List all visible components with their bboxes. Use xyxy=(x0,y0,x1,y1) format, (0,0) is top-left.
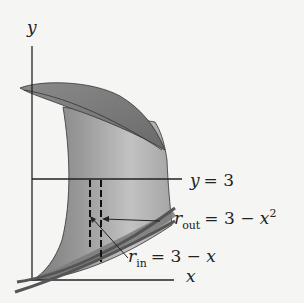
r-in-label: rin= 3 − x xyxy=(128,246,216,270)
line-label: y= 3 xyxy=(189,170,234,190)
x-axis-label: x xyxy=(186,266,196,286)
diagram-canvas: y x y= 3 rout= 3 − x2 rin= 3 − x xyxy=(0,0,304,303)
y-axis-label: y xyxy=(26,17,37,37)
r-out-label: rout= 3 − x2 xyxy=(174,207,276,232)
washer-method-diagram: y x y= 3 rout= 3 − x2 rin= 3 − x xyxy=(0,0,304,303)
